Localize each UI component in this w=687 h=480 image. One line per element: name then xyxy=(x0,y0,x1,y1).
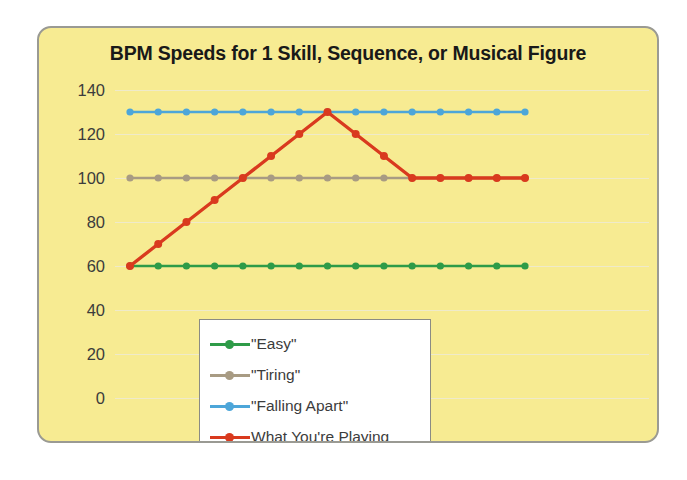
data-point-marker xyxy=(493,174,501,182)
data-point-marker xyxy=(409,262,416,269)
data-point-marker xyxy=(436,174,444,182)
data-point-marker xyxy=(267,262,274,269)
data-point-marker xyxy=(296,262,303,269)
data-point-marker xyxy=(493,262,500,269)
data-point-marker xyxy=(324,262,331,269)
data-point-marker xyxy=(465,174,473,182)
legend-item-label: "Tiring" xyxy=(251,366,300,384)
data-point-marker xyxy=(352,108,359,115)
data-point-marker xyxy=(521,262,528,269)
data-point-marker xyxy=(493,108,500,115)
data-point-marker xyxy=(380,152,388,160)
legend-color-swatch xyxy=(210,430,250,443)
data-point-marker xyxy=(182,218,190,226)
data-point-marker xyxy=(296,108,303,115)
legend-color-swatch xyxy=(210,399,250,413)
data-point-marker xyxy=(211,196,219,204)
data-point-marker xyxy=(352,262,359,269)
data-point-marker xyxy=(295,130,303,138)
data-point-marker xyxy=(155,174,162,181)
legend-item-label: "Falling Apart" xyxy=(251,397,348,415)
data-point-marker xyxy=(211,108,218,115)
data-point-marker xyxy=(126,108,133,115)
data-point-marker xyxy=(352,130,360,138)
series-line xyxy=(130,112,525,266)
data-point-marker xyxy=(352,174,359,181)
legend-color-swatch xyxy=(210,337,250,351)
legend-item[interactable]: "Easy" xyxy=(210,329,296,359)
data-series xyxy=(126,108,529,270)
data-point-marker xyxy=(380,174,387,181)
legend-swatch-dot xyxy=(225,340,234,349)
legend-color-swatch xyxy=(210,368,250,382)
chart-legend: "Easy""Tiring""Falling Apart"What You're… xyxy=(199,319,431,443)
data-point-marker xyxy=(324,174,331,181)
legend-swatch-dot xyxy=(225,433,234,442)
legend-item[interactable]: What You're Playing xyxy=(210,422,389,443)
data-point-marker xyxy=(183,174,190,181)
data-point-marker xyxy=(408,174,416,182)
data-point-marker xyxy=(409,108,416,115)
data-point-marker xyxy=(126,174,133,181)
data-point-marker xyxy=(154,240,162,248)
data-point-marker xyxy=(126,262,134,270)
data-point-marker xyxy=(324,108,332,116)
data-point-marker xyxy=(183,108,190,115)
data-point-marker xyxy=(239,108,246,115)
data-point-marker xyxy=(211,174,218,181)
data-point-marker xyxy=(183,262,190,269)
data-point-marker xyxy=(155,262,162,269)
chart-panel: BPM Speeds for 1 Skill, Sequence, or Mus… xyxy=(37,26,659,443)
data-point-marker xyxy=(380,108,387,115)
data-point-marker xyxy=(296,174,303,181)
data-point-marker xyxy=(465,262,472,269)
data-series xyxy=(126,262,528,269)
legend-swatch-dot xyxy=(225,402,234,411)
data-point-marker xyxy=(437,262,444,269)
data-point-marker xyxy=(380,262,387,269)
legend-item[interactable]: "Tiring" xyxy=(210,360,300,390)
data-point-marker xyxy=(267,108,274,115)
legend-item[interactable]: "Falling Apart" xyxy=(210,391,348,421)
data-point-marker xyxy=(239,262,246,269)
data-point-marker xyxy=(521,108,528,115)
data-point-marker xyxy=(155,108,162,115)
data-point-marker xyxy=(239,174,247,182)
data-point-marker xyxy=(521,174,529,182)
data-point-marker xyxy=(437,108,444,115)
legend-item-label: "Easy" xyxy=(251,335,296,353)
data-point-marker xyxy=(211,262,218,269)
data-point-marker xyxy=(465,108,472,115)
data-point-marker xyxy=(267,152,275,160)
legend-swatch-dot xyxy=(225,371,234,380)
legend-item-label: What You're Playing xyxy=(251,428,389,443)
data-point-marker xyxy=(267,174,274,181)
